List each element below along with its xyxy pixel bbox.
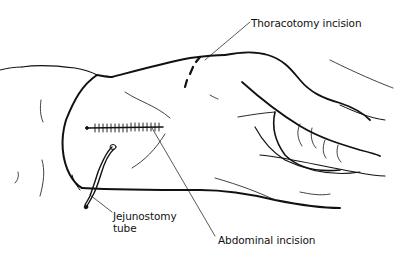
- jejunostomy-label-line2: tube: [113, 222, 177, 234]
- thoracotomy-incision-label: Thoracotomy incision: [251, 17, 362, 29]
- jejunostomy-tube-label: Jejunostomy tube: [113, 210, 177, 234]
- medical-illustration: Thoracotomy incision Jejunostomy tube Ab…: [0, 0, 395, 256]
- patient-body-drawing: [0, 0, 395, 256]
- abdominal-incision-label: Abdominal incision: [218, 234, 315, 246]
- jejunostomy-label-line1: Jejunostomy: [113, 210, 177, 222]
